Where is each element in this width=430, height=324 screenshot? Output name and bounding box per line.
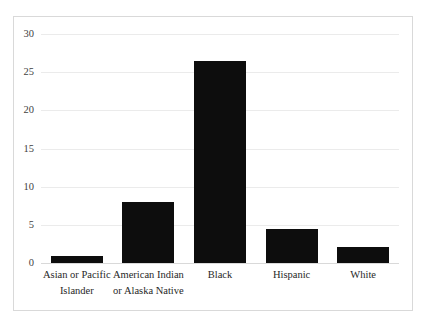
bar[interactable] — [337, 247, 389, 263]
y-axis-tick-label: 20 — [24, 105, 35, 116]
bar-chart-figure: 051015202530 Asian or Pacific IslanderAm… — [13, 16, 413, 311]
x-axis-tick-labels: Asian or Pacific IslanderAmerican Indian… — [41, 267, 399, 307]
y-axis-tick-label: 15 — [24, 143, 35, 154]
y-axis-tick-label: 25 — [24, 67, 35, 78]
bar[interactable] — [266, 229, 318, 263]
bar-slot — [327, 34, 399, 263]
x-axis-tick-label: Asian or Pacific Islander — [41, 267, 113, 299]
bars-group — [41, 34, 399, 263]
bar-slot — [113, 34, 185, 263]
x-axis-tick-label: Hispanic — [256, 267, 328, 283]
y-axis-tick-label: 0 — [29, 258, 34, 269]
plot-area: 051015202530 — [41, 34, 399, 263]
bar-slot — [256, 34, 328, 263]
y-axis-tick-label: 10 — [24, 181, 35, 192]
bar[interactable] — [194, 61, 246, 263]
x-axis-tick-label: Black — [184, 267, 256, 283]
bar-slot — [184, 34, 256, 263]
gridline — [41, 263, 399, 264]
x-axis-tick-label: American Indian or Alaska Native — [113, 267, 185, 299]
x-axis-tick-label: White — [327, 267, 399, 283]
bar-slot — [41, 34, 113, 263]
y-axis-tick-label: 30 — [24, 29, 35, 40]
bar[interactable] — [122, 202, 174, 263]
y-axis-tick-label: 5 — [29, 220, 34, 231]
bar[interactable] — [51, 256, 103, 263]
